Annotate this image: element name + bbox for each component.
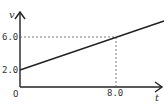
origin-label: O (13, 89, 18, 99)
y-tick-6: 6.0 (2, 32, 18, 42)
y-axis-label: v (9, 9, 15, 20)
series-line (20, 21, 164, 70)
x-axis-label: t (155, 92, 160, 103)
velocity-time-graph: v 6.0 2.0 O 8.0 t (0, 0, 166, 112)
y-tick-2: 2.0 (2, 65, 18, 75)
x-tick-8: 8.0 (107, 88, 123, 98)
